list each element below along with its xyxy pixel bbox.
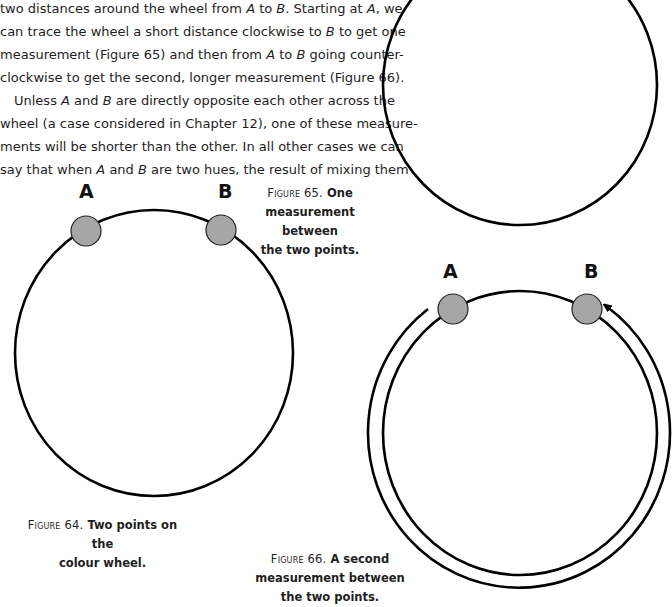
figure-64-caption-line: Two points on the xyxy=(87,518,177,551)
figure-65-wheel xyxy=(383,0,657,225)
figure-66-label-a: A xyxy=(443,260,458,282)
colour-wheel-circle xyxy=(383,0,657,225)
figure-64-label-a: A xyxy=(79,180,94,202)
point-b-marker xyxy=(572,294,602,324)
figure-66-label-b: B xyxy=(584,260,598,282)
figure-65-caption-line: the two points. xyxy=(240,241,380,260)
figure-66-caption: Figure 66. A second measurement between … xyxy=(250,550,410,607)
figure-65-caption-prefix: Figure 65. xyxy=(267,186,323,200)
figure-65-caption-line: One xyxy=(327,186,353,200)
figure-64-caption-prefix: Figure 64. xyxy=(28,518,84,532)
figure-66-caption-line: the two points. xyxy=(250,588,410,607)
figure-66-caption-prefix: Figure 66. xyxy=(271,552,327,566)
figure-66-wheel xyxy=(368,291,670,588)
point-a-marker xyxy=(438,294,468,324)
figure-64-label-b: B xyxy=(218,180,232,202)
figure-66-caption-line: measurement between xyxy=(250,569,410,588)
figure-65-caption-line: measurement between xyxy=(240,203,380,241)
colour-wheel-circle xyxy=(383,291,657,575)
counterclockwise-arrow xyxy=(368,306,670,588)
figure-66-caption-line: A second xyxy=(330,552,389,566)
point-b-marker xyxy=(206,215,236,245)
figure-64-caption: Figure 64. Two points on the colour whee… xyxy=(20,516,185,573)
figure-65-caption: Figure 65. One measurement between the t… xyxy=(240,184,380,260)
point-a-marker xyxy=(71,216,101,246)
figure-64-caption-line: colour wheel. xyxy=(20,554,185,573)
